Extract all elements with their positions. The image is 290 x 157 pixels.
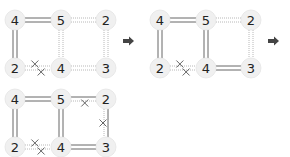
bridge-a-d bbox=[13, 30, 17, 58]
island-node: 3 bbox=[241, 58, 261, 78]
island-value: 2 bbox=[102, 92, 110, 107]
island-node: 2 bbox=[150, 58, 170, 78]
island-value: 4 bbox=[11, 13, 19, 28]
puzzle-step-1: 452243 bbox=[5, 10, 116, 78]
island-node: 3 bbox=[96, 137, 116, 157]
bridge-a-b bbox=[25, 97, 51, 101]
right-arrow-icon bbox=[123, 37, 134, 46]
island-value: 4 bbox=[57, 61, 65, 76]
bridge-b-e bbox=[204, 30, 208, 58]
island-node: 5 bbox=[51, 89, 71, 109]
island-node: 4 bbox=[51, 58, 71, 78]
island-node: 4 bbox=[196, 58, 216, 78]
puzzle-step-3: 452243 bbox=[5, 89, 116, 157]
island-value: 2 bbox=[11, 61, 19, 76]
island-node: 4 bbox=[5, 89, 25, 109]
island-node: 2 bbox=[96, 10, 116, 30]
bridge-b-c bbox=[71, 18, 96, 22]
cross-icon bbox=[31, 61, 38, 68]
island-value: 5 bbox=[57, 92, 65, 107]
island-value: 2 bbox=[11, 140, 19, 155]
island-value: 4 bbox=[156, 13, 164, 28]
bridge-b-c bbox=[71, 97, 96, 107]
island-node: 2 bbox=[241, 10, 261, 30]
island-node: 2 bbox=[5, 58, 25, 78]
island-node: 3 bbox=[96, 58, 116, 78]
bridge-e-f bbox=[216, 66, 241, 70]
island-node: 5 bbox=[196, 10, 216, 30]
island-node: 4 bbox=[51, 137, 71, 157]
island-node: 5 bbox=[51, 10, 71, 30]
island-value: 2 bbox=[247, 13, 255, 28]
bridge-d-e bbox=[170, 61, 196, 76]
bridge-c-f bbox=[100, 109, 109, 137]
island-node: 4 bbox=[150, 10, 170, 30]
bridge-b-e bbox=[59, 109, 63, 137]
island-node: 4 bbox=[5, 10, 25, 30]
bridge-c-f bbox=[104, 30, 108, 58]
puzzle-step-2: 452243 bbox=[150, 10, 261, 78]
bridge-a-b bbox=[25, 18, 51, 22]
bridge-b-c bbox=[216, 18, 241, 22]
island-value: 3 bbox=[102, 61, 110, 76]
bridge-e-f bbox=[71, 145, 96, 149]
cross-icon bbox=[31, 140, 38, 147]
island-value: 4 bbox=[57, 140, 65, 155]
bridge-b-e bbox=[59, 30, 63, 58]
cross-icon bbox=[176, 61, 183, 68]
island-value: 5 bbox=[57, 13, 65, 28]
bridge-a-d bbox=[158, 30, 162, 58]
island-value: 4 bbox=[202, 61, 210, 76]
bridge-a-b bbox=[170, 18, 196, 22]
right-arrow-icon bbox=[268, 37, 279, 46]
island-value: 4 bbox=[11, 92, 19, 107]
cross-icon bbox=[81, 100, 88, 107]
island-value: 5 bbox=[202, 13, 210, 28]
bridge-d-e bbox=[25, 140, 51, 155]
bridge-c-f bbox=[249, 30, 253, 58]
island-node: 2 bbox=[96, 89, 116, 109]
bridge-d-e bbox=[25, 61, 51, 76]
bridges-puzzle-diagram: 452243452243452243 bbox=[0, 0, 290, 157]
island-value: 2 bbox=[156, 61, 164, 76]
bridge-e-f bbox=[71, 66, 96, 70]
island-node: 2 bbox=[5, 137, 25, 157]
cross-icon bbox=[100, 120, 107, 127]
island-value: 3 bbox=[247, 61, 255, 76]
island-value: 2 bbox=[102, 13, 110, 28]
bridge-a-d bbox=[13, 109, 17, 137]
island-value: 3 bbox=[102, 140, 110, 155]
